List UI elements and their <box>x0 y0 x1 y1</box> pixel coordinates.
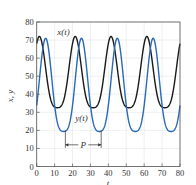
chart: 0102030405060708001020304050607080 x(t)y… <box>0 0 196 185</box>
x-tick-label: 60 <box>140 168 149 178</box>
axis-ticks: 0102030405060708001020304050607080 <box>25 17 184 178</box>
y-axis-label: x, y <box>5 90 15 104</box>
period-label: P <box>80 140 87 150</box>
x-tick-label: 30 <box>86 168 95 178</box>
x-axis-label: t <box>107 178 110 185</box>
y-tick-label: 20 <box>25 125 34 135</box>
x-series-label: x(t) <box>56 27 70 37</box>
x-tick-label: 70 <box>158 168 167 178</box>
y-tick-label: 60 <box>25 53 34 63</box>
y-tick-label: 0 <box>29 162 33 172</box>
x-tick-label: 80 <box>176 168 185 178</box>
x-tick-label: 40 <box>104 168 113 178</box>
y-tick-label: 10 <box>25 143 34 153</box>
y-tick-label: 70 <box>25 35 34 45</box>
y-tick-label: 80 <box>25 17 34 27</box>
x-tick-label: 0 <box>35 168 39 178</box>
y-tick-label: 50 <box>25 71 34 81</box>
x-tick-label: 10 <box>50 168 59 178</box>
x-tick-label: 50 <box>122 168 131 178</box>
y-series-label: y(t) <box>74 113 88 123</box>
y-tick-label: 40 <box>25 89 34 99</box>
y-tick-label: 30 <box>25 107 34 117</box>
x-tick-label: 20 <box>68 168 77 178</box>
